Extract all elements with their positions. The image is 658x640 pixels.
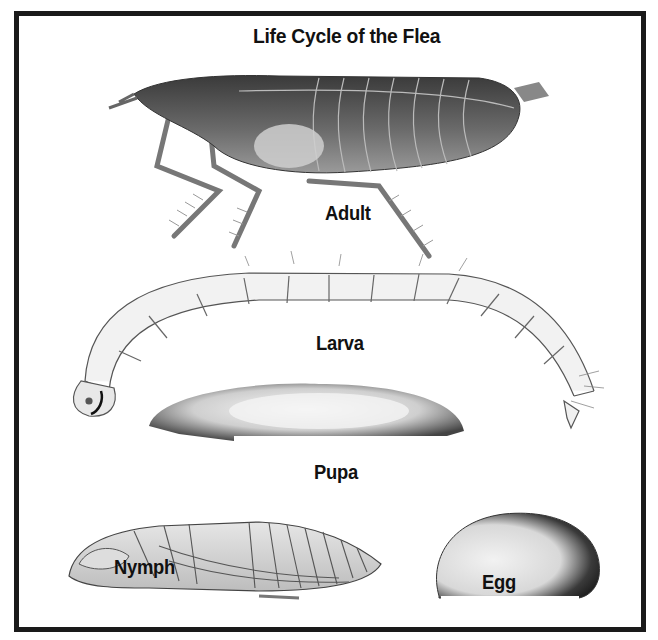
adult-flea-illustration — [109, 76, 549, 256]
diagram-title: Life Cycle of the Flea — [253, 24, 440, 48]
egg-illustration — [437, 513, 600, 598]
diagram-frame: Life Cycle of the Flea Adult Larva Pupa … — [14, 11, 646, 632]
label-nymph: Nymph — [114, 556, 175, 579]
illustrations — [19, 16, 641, 627]
label-pupa: Pupa — [314, 461, 358, 484]
label-egg: Egg — [482, 571, 516, 594]
label-adult: Adult — [325, 202, 371, 225]
label-larva: Larva — [316, 332, 364, 355]
